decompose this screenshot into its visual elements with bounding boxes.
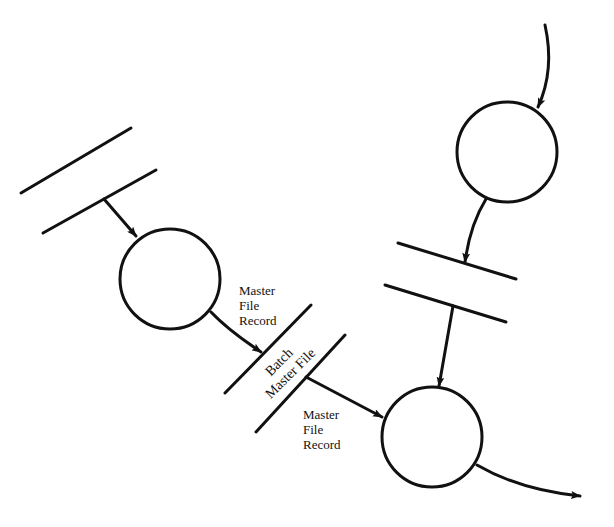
flow-process-bottom-out [477,465,580,496]
store-right [385,243,516,322]
process-left [120,229,220,329]
flow-process-top-right-to-store-right [465,199,486,262]
flow-label-master-file-record-lower: Master File Record [303,407,341,452]
label-line: Master [303,407,341,422]
store-right-line-lower [385,285,506,322]
flow-external-in-to-process-top-right [538,25,549,107]
label-line: Record [303,437,341,452]
flow-store-right-to-process-bottom [439,306,453,386]
flow-label-master-file-record-upper: Master File Record [239,283,277,328]
process-bottom [382,387,482,487]
label-line: Master [239,283,277,298]
process-top-right [457,102,557,202]
label-line: Record [239,313,277,328]
store-right-line-upper [398,243,516,279]
flow-store-top-left-to-process-left [104,199,136,236]
store-top-left [21,128,156,233]
label-line: File [239,298,277,313]
store-top-left-line-lower [43,170,156,233]
store-top-left-line-upper [21,128,131,193]
label-line: File [303,422,341,437]
